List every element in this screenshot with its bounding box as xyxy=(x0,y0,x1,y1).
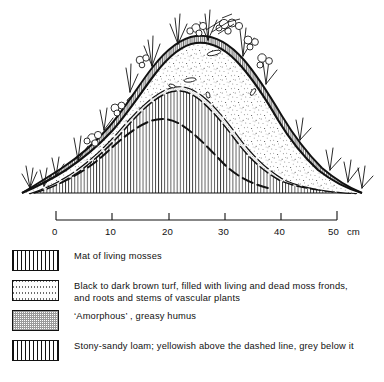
legend-label-humus: ‘Amorphous’ , greasy humus xyxy=(74,310,196,322)
mound-cross-section-diagram xyxy=(0,0,384,215)
legend-humus-line1: ‘Amorphous’ , greasy humus xyxy=(74,310,196,322)
scale-tick-10: 10 xyxy=(105,226,116,237)
legend-label-loam: Stony-sandy loam; yellowish above the da… xyxy=(74,340,354,352)
scale-tick-20: 20 xyxy=(162,226,173,237)
legend-swatch-loam-vertical xyxy=(12,340,59,361)
legend-label-moss: Mat of living mosses xyxy=(74,250,162,262)
legend-label-turf: Black to dark brown turf, filled with li… xyxy=(74,280,348,305)
legend-item-turf: Black to dark brown turf, filled with li… xyxy=(12,280,348,305)
scale-tick-50: 50 xyxy=(328,226,339,237)
legend-loam-line1: Stony-sandy loam; yellowish above the da… xyxy=(74,340,354,352)
figure-root: 0 10 20 30 40 50 cm Mat of living mosses… xyxy=(0,0,384,382)
legend-swatch-moss-hatch xyxy=(12,250,59,271)
legend: Mat of living mosses Black to dark brown… xyxy=(0,244,384,374)
legend-turf-line2: and roots and stems of vascular plants xyxy=(74,292,348,304)
scale-unit-label: cm xyxy=(347,226,360,237)
scale-bar-svg xyxy=(0,208,384,230)
legend-item-loam: Stony-sandy loam; yellowish above the da… xyxy=(12,340,354,361)
legend-item-humus: ‘Amorphous’ , greasy humus xyxy=(12,310,196,331)
scale-bar: 0 10 20 30 40 50 cm xyxy=(0,208,384,242)
legend-swatch-humus-crosshatch xyxy=(12,310,59,331)
cross-section-svg xyxy=(0,0,384,215)
legend-swatch-turf-stipple xyxy=(12,280,59,301)
legend-turf-line1: Black to dark brown turf, filled with li… xyxy=(74,280,348,292)
scale-tick-0: 0 xyxy=(52,226,58,237)
scale-tick-30: 30 xyxy=(218,226,229,237)
legend-item-moss: Mat of living mosses xyxy=(12,250,162,271)
scale-tick-40: 40 xyxy=(274,226,285,237)
legend-moss-line1: Mat of living mosses xyxy=(74,250,162,262)
